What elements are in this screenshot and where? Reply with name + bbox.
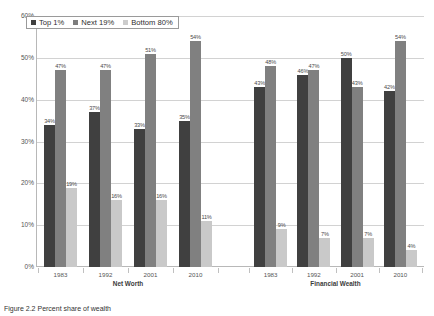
bar: 35%: [179, 121, 190, 267]
x-axis-tick-mark: [128, 268, 129, 273]
bar: 7%: [363, 238, 374, 267]
bar-value-label: 37%: [89, 105, 100, 111]
x-axis-tick-label: 1983: [54, 271, 68, 278]
bar-value-label: 7%: [321, 231, 329, 237]
bar-value-label: 48%: [265, 59, 276, 65]
x-axis-tick-label: 1992: [307, 271, 321, 278]
bar-value-label: 47%: [309, 63, 320, 69]
bar: 19%: [66, 188, 77, 267]
bar-cluster: 33%51%16%: [128, 16, 173, 267]
x-axis-tick-label: 2010: [189, 271, 203, 278]
bar: 51%: [145, 54, 156, 267]
bar: 11%: [201, 221, 212, 267]
bar-value-label: 34%: [44, 118, 55, 124]
x-axis-tick-label: 1992: [99, 271, 113, 278]
bars-layer: 34%47%19%37%47%16%33%51%16%35%54%11%43%4…: [36, 16, 424, 267]
legend-swatch-icon: [123, 20, 128, 25]
bar: 16%: [156, 200, 167, 267]
bar: 54%: [395, 41, 406, 267]
bar: 47%: [308, 70, 319, 267]
bar: 47%: [100, 70, 111, 267]
legend-item: Next 19%: [73, 18, 114, 27]
legend-swatch-icon: [31, 20, 36, 25]
bar-value-label: 9%: [278, 222, 286, 228]
bar-value-label: 47%: [55, 63, 66, 69]
bar-value-label: 43%: [352, 80, 363, 86]
x-axis-tick-mark: [83, 268, 84, 273]
bar-value-label: 7%: [364, 231, 372, 237]
group-title: Financial Wealth: [310, 280, 360, 287]
y-axis-tick-label: 40%: [4, 96, 34, 103]
x-axis-tick-mark: [336, 268, 337, 273]
bar-cluster: 37%47%16%: [83, 16, 128, 267]
bar-cluster: 46%47%7%: [292, 16, 335, 267]
bar: 47%: [55, 70, 66, 267]
y-axis-tick-label: 50%: [4, 54, 34, 61]
x-axis-tick-mark: [38, 268, 39, 273]
x-axis-tick-mark: [249, 268, 250, 273]
bar-cluster: 35%54%11%: [173, 16, 218, 267]
x-axis-tick-label: 2001: [350, 271, 364, 278]
x-axis-tick-mark: [292, 268, 293, 273]
x-axis-tick-label: 2010: [393, 271, 407, 278]
x-axis-tick-mark: [173, 268, 174, 273]
bar-value-label: 16%: [111, 193, 122, 199]
bar-value-label: 42%: [384, 84, 395, 90]
bar: 34%: [44, 125, 55, 267]
bar: 43%: [254, 87, 265, 267]
bar: 43%: [352, 87, 363, 267]
bar: 46%: [297, 75, 308, 267]
legend-label: Next 19%: [81, 18, 114, 27]
bar-value-label: 33%: [134, 122, 145, 128]
bar: 4%: [406, 250, 417, 267]
x-axis-tick-mark: [218, 268, 219, 273]
bar: 16%: [111, 200, 122, 267]
bar-value-label: 35%: [179, 114, 190, 120]
bar: 54%: [190, 41, 201, 267]
bar-value-label: 19%: [66, 181, 77, 187]
x-axis: 1983199220012010Net Worth198319922001201…: [36, 268, 424, 302]
bar: 50%: [341, 58, 352, 267]
legend-label: Top 1%: [39, 18, 64, 27]
bar: 33%: [134, 129, 145, 267]
bar-cluster: 50%43%7%: [336, 16, 379, 267]
bar-value-label: 16%: [156, 193, 167, 199]
legend-label: Bottom 80%: [131, 18, 172, 27]
x-axis-tick-label: 1983: [264, 271, 278, 278]
bar-cluster: 42%54%4%: [379, 16, 422, 267]
x-axis-tick-mark: [379, 268, 380, 273]
bar-value-label: 47%: [100, 63, 111, 69]
bar: 7%: [319, 238, 330, 267]
y-axis-tick-label: 10%: [4, 221, 34, 228]
x-axis-tick-mark: [422, 268, 423, 273]
bar-cluster: 43%48%9%: [249, 16, 292, 267]
bar: 42%: [384, 91, 395, 267]
bar-value-label: 46%: [298, 68, 309, 74]
bar-value-label: 4%: [408, 243, 416, 249]
bar-value-label: 54%: [395, 34, 406, 40]
bar: 37%: [89, 112, 100, 267]
bar-value-label: 11%: [201, 214, 211, 220]
bar-value-label: 43%: [254, 80, 265, 86]
x-axis-tick-label: 2001: [144, 271, 158, 278]
wealth-distribution-bar-chart: 0%10%20%30%40%50%60% 34%47%19%37%47%16%3…: [0, 0, 434, 316]
figure-caption: Figure 2.2 Percent share of wealth: [4, 303, 430, 316]
bar-value-label: 51%: [145, 47, 156, 53]
chart-legend: Top 1%Next 19%Bottom 80%: [26, 16, 179, 29]
legend-swatch-icon: [73, 20, 78, 25]
group-title: Net Worth: [113, 280, 143, 287]
bar-value-label: 54%: [190, 34, 201, 40]
bar-value-label: 50%: [341, 51, 352, 57]
y-axis-tick-label: 0%: [4, 263, 34, 270]
y-axis-tick-label: 20%: [4, 179, 34, 186]
bar-cluster: 34%47%19%: [38, 16, 83, 267]
y-axis-tick-label: 30%: [4, 138, 34, 145]
legend-item: Top 1%: [31, 18, 64, 27]
bar: 9%: [276, 229, 287, 267]
legend-item: Bottom 80%: [123, 18, 172, 27]
bar: 48%: [265, 66, 276, 267]
figure-caption-text: Figure 2.2 Percent share of wealth: [4, 305, 111, 312]
